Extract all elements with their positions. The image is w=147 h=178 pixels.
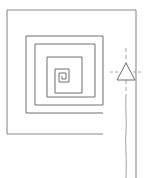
drawing-background xyxy=(0,0,147,178)
technical-drawing xyxy=(0,0,147,178)
drawing-canvas: Rectangular Spiral Coil Drawing No visib… xyxy=(0,0,147,178)
centerline-tail xyxy=(126,95,127,178)
